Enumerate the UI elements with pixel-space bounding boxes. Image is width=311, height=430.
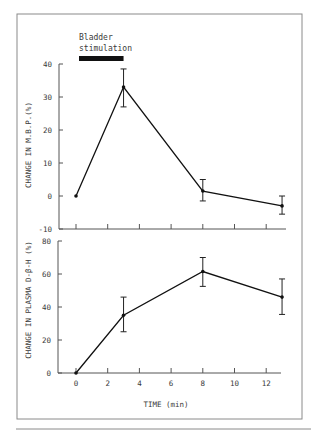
y-tick-label: 40	[43, 60, 53, 69]
figure: Bladder stimulation -10010203040 CHANGE …	[0, 0, 311, 430]
mbp-y-axis-label: CHANGE IN M.B.P.(%)	[24, 102, 33, 188]
x-axis-label: TIME (min)	[143, 400, 188, 409]
dbh-panel: 020406080024681012 CHANGE IN PLASMA D-β-…	[24, 237, 285, 409]
data-point	[74, 194, 78, 198]
y-tick-label: 30	[43, 93, 53, 102]
y-tick-label: 0	[47, 192, 52, 201]
y-tick-label: 60	[42, 270, 52, 279]
data-point	[201, 270, 205, 274]
dbh-axes: 020406080024681012	[42, 237, 281, 388]
data-point	[122, 85, 126, 89]
x-tick-label: 0	[74, 379, 79, 388]
y-tick-label: 0	[46, 369, 51, 378]
data-point	[122, 313, 126, 317]
data-point	[280, 204, 284, 208]
data-point	[74, 371, 78, 375]
series-line	[76, 87, 282, 206]
annotation-line1: Bladder	[79, 33, 113, 42]
annotation-line2: stimulation	[79, 44, 132, 53]
mbp-axes: -10010203040	[38, 60, 286, 234]
x-tick-label: 6	[169, 379, 174, 388]
y-tick-label: 40	[42, 303, 52, 312]
y-tick-label: 10	[43, 159, 53, 168]
x-tick-label: 2	[105, 379, 110, 388]
x-tick-label: 8	[201, 379, 206, 388]
dbh-y-axis-label: CHANGE IN PLASMA D-β-H (%)	[24, 241, 33, 358]
x-tick-label: 12	[262, 379, 271, 388]
mbp-series	[74, 69, 285, 214]
data-point	[201, 189, 205, 193]
y-tick-label: 80	[42, 237, 52, 246]
y-tick-label: 20	[42, 336, 52, 345]
figure-frame	[17, 14, 302, 419]
x-tick-label: 4	[137, 379, 142, 388]
data-point	[280, 295, 284, 299]
stimulation-bar	[79, 56, 124, 61]
stimulation-annotation: Bladder stimulation	[79, 33, 132, 61]
y-tick-label: 20	[43, 126, 53, 135]
x-tick-label: 10	[230, 379, 240, 388]
y-tick-label: -10	[38, 225, 52, 234]
dbh-series	[74, 258, 285, 375]
mbp-panel: -10010203040 CHANGE IN M.B.P.(%)	[24, 60, 286, 234]
series-line	[76, 272, 282, 373]
